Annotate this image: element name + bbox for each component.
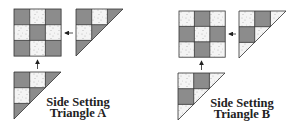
top-triangle-a	[76, 9, 123, 56]
block-a	[14, 9, 61, 56]
caption-b-line2: Triangle B	[206, 109, 278, 120]
block-b	[179, 11, 225, 57]
caption-a: Side Setting Triangle A	[42, 97, 114, 119]
caption-a-line2: Triangle A	[42, 108, 114, 119]
caption-b: Side Setting Triangle B	[206, 98, 278, 120]
top-triangle-b	[239, 11, 286, 58]
